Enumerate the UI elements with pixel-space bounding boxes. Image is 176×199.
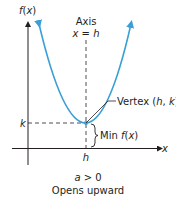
vertex-label: Vertex (h, k) — [117, 96, 176, 107]
parabola-diagram: f(x) x Axis x = h Vertex (h, k) k h Min … — [0, 0, 176, 199]
diagram-svg: f(x) x Axis x = h Vertex (h, k) k h Min … — [0, 0, 176, 199]
min-brace-icon — [91, 124, 98, 147]
k-label: k — [20, 118, 27, 129]
y-axis-label: f(x) — [19, 5, 36, 16]
min-label: Min f(x) — [100, 130, 138, 141]
x-axis-label: x — [161, 143, 168, 154]
condition-label: a > 0 — [74, 172, 101, 183]
caption: Opens upward — [52, 185, 124, 196]
h-label: h — [83, 152, 89, 163]
axis-equation: x = h — [71, 28, 99, 39]
axis-title: Axis — [76, 16, 97, 27]
